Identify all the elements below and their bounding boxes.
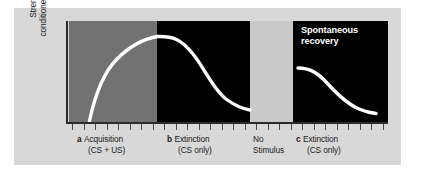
spontaneous-recovery-line1: Spontaneous xyxy=(301,25,358,35)
x-axis-tick xyxy=(279,124,280,130)
phase-subtitle-b: (CS only) xyxy=(178,145,212,156)
spontaneous-recovery-label: Spontaneous recovery xyxy=(301,25,385,47)
x-axis-ticks xyxy=(69,124,388,130)
x-axis-tick xyxy=(383,124,384,130)
phase-marker-a: a xyxy=(77,134,82,144)
phase-title-c: Extinction xyxy=(303,134,338,144)
x-axis-tick xyxy=(176,124,177,130)
x-axis-tick xyxy=(337,124,338,130)
x-axis-tick xyxy=(187,124,188,130)
phase-caption-extinction-1: bExtinction (CS only) xyxy=(167,134,212,155)
x-axis-tick xyxy=(72,124,73,130)
phase-caption-extinction-2: cExtinction (CS only) xyxy=(296,134,341,155)
phase-title-a: Acquisition xyxy=(84,134,123,144)
curve-extinction-1 xyxy=(157,36,250,110)
x-axis-tick xyxy=(360,124,361,130)
y-axis-label: Strength of conditioned response xyxy=(23,0,53,50)
x-axis-tick xyxy=(118,124,119,130)
x-axis-tick xyxy=(302,124,303,130)
phase-title-nostim: No xyxy=(253,134,263,144)
x-axis-tick xyxy=(199,124,200,130)
phase-subtitle-a: (CS + US) xyxy=(88,145,125,156)
phase-marker-c: c xyxy=(296,134,301,144)
x-axis-tick xyxy=(222,124,223,130)
phase-subtitle-nostim: Stimulus xyxy=(253,145,284,156)
plot-area: Spontaneous recovery xyxy=(69,21,388,122)
y-axis-line xyxy=(66,21,68,124)
x-axis-tick xyxy=(291,124,292,130)
x-axis-tick xyxy=(141,124,142,130)
curve-acquisition xyxy=(90,37,158,122)
x-axis-tick xyxy=(84,124,85,130)
x-axis-tick xyxy=(153,124,154,130)
x-axis-tick xyxy=(245,124,246,130)
x-axis-tick xyxy=(348,124,349,130)
phase-caption-acquisition: aAcquisition (CS + US) xyxy=(77,134,125,155)
x-axis-tick xyxy=(95,124,96,130)
x-axis-tick xyxy=(314,124,315,130)
phase-title-b: Extinction xyxy=(174,134,209,144)
y-axis-label-line2: conditioned response xyxy=(38,0,49,36)
curve-extinction-2 xyxy=(298,68,376,114)
phase-marker-b: b xyxy=(167,134,172,144)
x-axis-tick xyxy=(164,124,165,130)
x-axis-tick xyxy=(371,124,372,130)
x-axis-tick xyxy=(130,124,131,130)
x-axis-tick xyxy=(256,124,257,130)
x-axis-tick xyxy=(107,124,108,130)
phase-caption-no-stimulus: No Stimulus xyxy=(253,134,284,155)
phase-subtitle-c: (CS only) xyxy=(307,145,341,156)
x-axis-tick xyxy=(210,124,211,130)
spontaneous-recovery-line2: recovery xyxy=(301,36,339,46)
y-axis-label-line1: Strength of xyxy=(28,0,39,18)
figure-root: Strength of conditioned response Spontan… xyxy=(0,0,425,179)
x-axis-tick xyxy=(325,124,326,130)
x-axis-tick xyxy=(233,124,234,130)
x-axis-tick xyxy=(268,124,269,130)
